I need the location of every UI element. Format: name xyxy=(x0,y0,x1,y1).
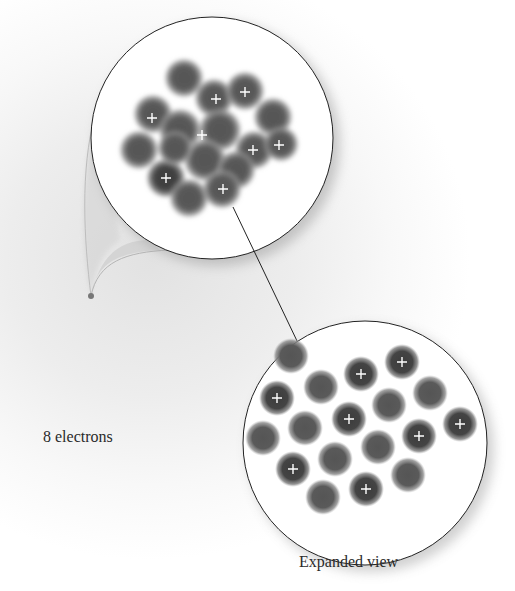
nucleus-view-circle xyxy=(91,17,333,259)
electrons-label: 8 electrons xyxy=(43,428,113,446)
atom-dot xyxy=(88,293,94,299)
atom-diagram xyxy=(0,0,515,591)
expanded-view-circle xyxy=(243,321,487,565)
expanded-view-label: Expanded view xyxy=(299,553,398,571)
